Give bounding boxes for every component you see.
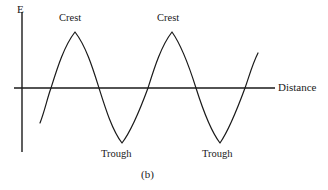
wave-plot-area [0, 0, 328, 190]
figure-caption: (b) [141, 169, 154, 180]
trough-label-second: Trough [202, 149, 233, 160]
wave-diagram-figure: E Distance Crest Crest Trough Trough (b) [0, 0, 328, 190]
crest-label-second: Crest [157, 13, 179, 24]
x-axis-label: Distance [278, 82, 316, 93]
trough-label-first: Trough [101, 149, 132, 160]
crest-label-first: Crest [59, 13, 81, 24]
y-axis-label: E [17, 4, 24, 15]
